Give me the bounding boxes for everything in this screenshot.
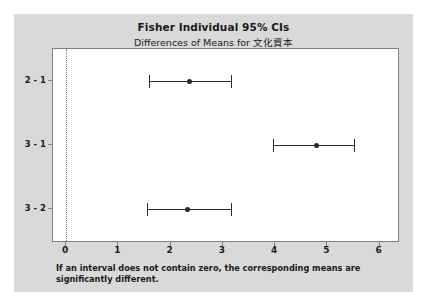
chart-subtitle: Differences of Means for 文化資本 [14,35,413,49]
figure-container: Fisher Individual 95% CIs Differences of… [14,14,413,292]
interval-cap-upper [231,75,232,88]
y-axis-tick [48,208,52,209]
mean-difference-marker [187,79,192,84]
mean-difference-marker [185,207,190,212]
y-axis-tick [48,144,52,145]
y-axis-tick [48,80,52,81]
x-axis-label-4: 4 [271,245,277,255]
mean-difference-marker [314,143,319,148]
x-axis-label-0: 0 [62,245,68,255]
chart-title: Fisher Individual 95% CIs [14,21,413,33]
x-axis-label-6: 6 [376,245,382,255]
x-axis-label-3: 3 [219,245,225,255]
y-axis-label-3-2: 3 - 2 [25,203,46,213]
y-axis-label-3-1: 3 - 1 [25,139,46,149]
x-axis-label-1: 1 [114,245,120,255]
chart-footnote: If an interval does not contain zero, th… [56,263,401,285]
interval-cap-upper [354,139,355,152]
interval-cap-lower [149,75,150,88]
interval-cap-lower [273,139,274,152]
x-axis-label-2: 2 [166,245,172,255]
interval-cap-lower [147,203,148,216]
plot-panel [52,48,399,242]
x-axis-label-5: 5 [323,245,329,255]
zero-reference-line [66,49,67,241]
interval-cap-upper [231,203,232,216]
y-axis-label-2-1: 2 - 1 [25,75,46,85]
